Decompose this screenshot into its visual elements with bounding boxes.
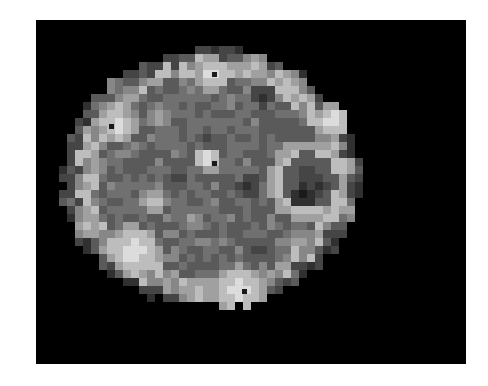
dark-spot [242, 289, 247, 294]
dark-spot [212, 161, 217, 166]
dark-spot [212, 72, 217, 77]
dark-spot [109, 124, 114, 129]
